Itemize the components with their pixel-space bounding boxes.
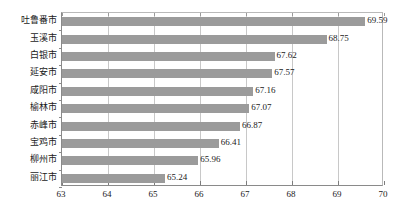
bar <box>62 69 272 78</box>
data-label: 69.59 <box>367 15 387 25</box>
bar <box>62 104 249 113</box>
bar <box>62 17 365 26</box>
data-label: 66.87 <box>242 120 262 130</box>
category-label: 丽江市 <box>0 172 57 182</box>
category-label: 宝鸡市 <box>0 137 57 147</box>
x-axis-tick-label: 65 <box>138 189 168 200</box>
data-label: 67.16 <box>255 85 275 95</box>
bar <box>62 87 253 96</box>
category-label: 玉溪市 <box>0 33 57 43</box>
x-axis-tick-top <box>292 13 293 16</box>
category-label: 赤峰市 <box>0 120 57 130</box>
bar <box>62 139 219 148</box>
x-axis-tick <box>384 181 385 185</box>
y-axis-tick <box>59 135 62 136</box>
bar-chart: 6364656667686970吐鲁番市69.59玉溪市68.75白银市67.6… <box>0 0 411 216</box>
y-axis-tick <box>59 100 62 101</box>
x-axis-tick <box>338 181 339 185</box>
category-label: 延安市 <box>0 67 57 77</box>
category-label: 咸阳市 <box>0 85 57 95</box>
x-axis-tick-label: 63 <box>46 189 76 200</box>
bar <box>62 122 240 131</box>
y-axis-tick <box>59 48 62 49</box>
y-axis-tick <box>59 187 62 188</box>
category-label: 柳州市 <box>0 154 57 164</box>
category-label: 白银市 <box>0 50 57 60</box>
data-label: 67.57 <box>274 67 294 77</box>
x-axis-tick-top <box>338 13 339 16</box>
x-axis-tick-label: 66 <box>184 189 214 200</box>
x-axis-tick-label: 64 <box>92 189 122 200</box>
y-axis-tick <box>59 83 62 84</box>
x-axis-tick-top <box>62 13 63 16</box>
category-label: 榆林市 <box>0 102 57 112</box>
x-axis-tick-label: 70 <box>368 189 398 200</box>
bar <box>62 52 275 61</box>
x-axis-tick-top <box>154 13 155 16</box>
bar <box>62 156 198 165</box>
x-axis-tick <box>292 181 293 185</box>
y-axis-tick <box>59 65 62 66</box>
x-axis-tick-top <box>246 13 247 16</box>
data-label: 65.96 <box>200 154 220 164</box>
y-axis-tick <box>59 117 62 118</box>
x-axis-tick-label: 68 <box>276 189 306 200</box>
x-axis-tick-top <box>200 13 201 16</box>
x-axis-tick <box>200 181 201 185</box>
x-axis-tick-top <box>108 13 109 16</box>
bar <box>62 174 165 183</box>
x-axis-tick-label: 67 <box>230 189 260 200</box>
data-label: 65.24 <box>167 172 187 182</box>
bar <box>62 35 327 44</box>
data-label: 68.75 <box>329 33 349 43</box>
y-axis-tick <box>59 30 62 31</box>
data-label: 67.07 <box>251 102 271 112</box>
y-axis-tick <box>59 170 62 171</box>
data-label: 67.62 <box>277 50 297 60</box>
data-label: 66.41 <box>221 137 241 147</box>
category-label: 吐鲁番市 <box>0 15 57 25</box>
x-axis-tick <box>246 181 247 185</box>
x-axis-tick-label: 69 <box>322 189 352 200</box>
y-axis-tick <box>59 152 62 153</box>
